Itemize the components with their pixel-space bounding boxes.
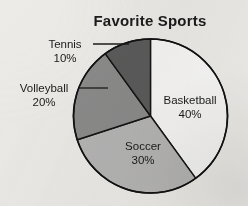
- slice-label-value-tennis: 10%: [53, 52, 76, 64]
- slice-label-name-volleyball: Volleyball: [20, 82, 69, 94]
- slice-label-value-soccer: 30%: [131, 154, 154, 166]
- slice-label-value-volleyball: 20%: [32, 96, 55, 108]
- pie-chart-screenshot: Favorite Sports Basketball40%Soccer30%Vo…: [0, 0, 248, 206]
- favorite-sports-pie-chart: Favorite Sports Basketball40%Soccer30%Vo…: [0, 0, 248, 206]
- slice-label-name-tennis: Tennis: [48, 38, 81, 50]
- slice-label-name-basketball: Basketball: [163, 94, 216, 106]
- slice-label-name-soccer: Soccer: [125, 140, 161, 152]
- chart-title: Favorite Sports: [93, 12, 206, 29]
- slice-label-value-basketball: 40%: [178, 108, 201, 120]
